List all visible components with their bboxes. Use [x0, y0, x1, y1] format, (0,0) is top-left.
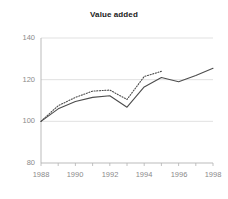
series-line-solid [41, 68, 213, 121]
gridlines [41, 38, 213, 163]
data-series [41, 68, 213, 121]
chart-plot [0, 0, 228, 199]
chart-container: Value added 140 120 100 80 1988 1990 199… [0, 0, 228, 199]
